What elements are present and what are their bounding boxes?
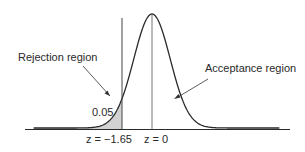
alpha-label: 0.05	[92, 106, 113, 118]
acceptance-arrow-head	[174, 94, 181, 99]
normal-distribution-diagram: Rejection region 0.05 Acceptance region …	[0, 0, 305, 152]
mean-tick-label: z = 0	[144, 133, 168, 145]
acceptance-region-label: Acceptance region	[205, 62, 296, 74]
rejection-region-label: Rejection region	[18, 51, 98, 63]
rejection-arrow-shaft	[83, 66, 110, 96]
critical-value-tick-label: z = −1.65	[86, 133, 132, 145]
acceptance-arrow-shaft	[178, 79, 208, 97]
